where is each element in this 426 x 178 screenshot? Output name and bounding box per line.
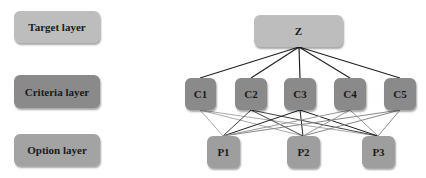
target-node-z: Z <box>254 15 343 47</box>
option-node-p1: P1 <box>207 136 240 168</box>
criteria-node-c2: C2 <box>235 78 267 110</box>
option-node-p3: P3 <box>362 136 395 168</box>
criteria-node-c1: C1 <box>185 78 216 110</box>
legend-target-layer: Target layer <box>14 11 100 43</box>
criteria-node-c3: C3 <box>284 78 316 110</box>
criteria-node-c4: C4 <box>334 78 366 110</box>
criteria-node-c5: C5 <box>384 78 416 110</box>
option-node-p2: P2 <box>287 136 320 168</box>
legend-criteria-layer: Criteria layer <box>14 75 100 108</box>
legend-option-layer: Option layer <box>14 134 100 166</box>
